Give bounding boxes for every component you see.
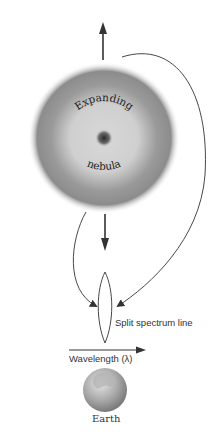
earth-label: Earth: [92, 413, 121, 424]
wavelength-axis-label: Wavelength (λ): [69, 353, 133, 364]
down-arrow-icon: [101, 214, 109, 251]
nebula-core: [95, 129, 113, 147]
earth-globe-icon: [83, 368, 127, 412]
expanding-nebula-diagram: Expanding nebula Split spectrum line Wav…: [0, 0, 219, 439]
split-spectrum-line: [98, 272, 112, 343]
blueshift-light-path: [73, 212, 96, 306]
diagram-graphics: Expanding nebula: [0, 0, 219, 439]
up-arrow-icon: [99, 22, 107, 60]
nebula: [28, 62, 180, 214]
split-spectrum-label: Split spectrum line: [115, 317, 193, 328]
